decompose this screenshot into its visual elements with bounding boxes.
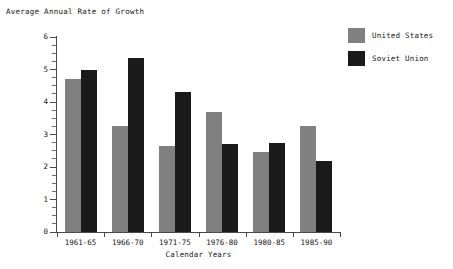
x-axis-tick-labels: 1961-651966-701971-751976-801980-851985-… bbox=[0, 238, 453, 250]
y-axis-tick-major bbox=[50, 37, 56, 38]
legend-item: Soviet Union bbox=[348, 51, 448, 74]
y-axis-tick-minor bbox=[52, 142, 56, 143]
x-axis-tick bbox=[104, 233, 105, 237]
x-axis-tick bbox=[293, 233, 294, 237]
y-axis-tick-minor bbox=[52, 110, 56, 111]
x-axis-tick bbox=[340, 233, 341, 237]
x-axis-tick bbox=[246, 233, 247, 237]
bar-1976-80-soviet-union bbox=[222, 144, 238, 232]
y-axis-tick-minor bbox=[52, 126, 56, 127]
bar-chart: Average Annual Rate of Growth 0123456 19… bbox=[0, 0, 453, 269]
y-axis-tick-label: 0 bbox=[14, 228, 48, 236]
y-axis-tick-label: 5 bbox=[14, 66, 48, 74]
x-axis-tick-label: 1971-75 bbox=[159, 238, 191, 247]
y-axis-tick-minor bbox=[52, 207, 56, 208]
bar-1961-65-soviet-union bbox=[81, 70, 97, 233]
y-axis-tick-labels: 0123456 bbox=[8, 0, 48, 269]
legend-item: United States bbox=[348, 28, 448, 51]
bar-1961-65-united-states bbox=[65, 79, 81, 232]
bar-1966-70-soviet-union bbox=[128, 58, 144, 232]
x-axis-tick bbox=[57, 233, 58, 237]
y-axis-tick-major bbox=[50, 134, 56, 135]
y-axis-tick-major bbox=[50, 102, 56, 103]
y-axis-tick-label: 6 bbox=[14, 33, 48, 41]
y-axis-tick-major bbox=[50, 167, 56, 168]
legend-swatch-icon bbox=[348, 28, 365, 43]
y-axis-tick-major bbox=[50, 232, 56, 233]
legend-label: Soviet Union bbox=[372, 54, 429, 63]
plot-area bbox=[57, 37, 340, 232]
y-axis-tick-minor bbox=[52, 215, 56, 216]
y-axis-tick-minor bbox=[52, 61, 56, 62]
bar-1976-80-united-states bbox=[206, 112, 222, 232]
y-axis-tick-major bbox=[50, 69, 56, 70]
bar-1971-75-united-states bbox=[159, 146, 175, 232]
bar-1971-75-soviet-union bbox=[175, 92, 191, 232]
y-axis-tick-minor bbox=[52, 191, 56, 192]
bar-1985-90-soviet-union bbox=[316, 161, 332, 233]
x-axis-tick-label: 1966-70 bbox=[112, 238, 144, 247]
y-axis-tick-label: 2 bbox=[14, 163, 48, 171]
y-axis-tick-label: 3 bbox=[14, 131, 48, 139]
y-axis-tick-label: 4 bbox=[14, 98, 48, 106]
x-axis-title: Calendar Years bbox=[57, 250, 340, 259]
y-axis-tick-minor bbox=[52, 223, 56, 224]
y-axis-tick-minor bbox=[52, 183, 56, 184]
y-axis-tick-minor bbox=[52, 158, 56, 159]
chart-legend: United StatesSoviet Union bbox=[348, 28, 448, 74]
legend-label: United States bbox=[372, 31, 433, 40]
x-axis-tick-label: 1961-65 bbox=[65, 238, 97, 247]
legend-swatch-icon bbox=[348, 51, 365, 66]
y-axis-tick-minor bbox=[52, 150, 56, 151]
y-axis-tick-label: 1 bbox=[14, 196, 48, 204]
y-axis-tick-minor bbox=[52, 85, 56, 86]
y-axis-tick-minor bbox=[52, 53, 56, 54]
y-axis-tick-minor bbox=[52, 77, 56, 78]
bar-1980-85-united-states bbox=[253, 152, 269, 232]
x-axis-tick bbox=[199, 233, 200, 237]
y-axis-tick-minor bbox=[52, 118, 56, 119]
y-axis-tick-minor bbox=[52, 45, 56, 46]
y-axis-tick-major bbox=[50, 199, 56, 200]
bar-1966-70-united-states bbox=[112, 126, 128, 232]
y-axis-tick-minor bbox=[52, 93, 56, 94]
x-axis-tick-label: 1985-90 bbox=[301, 238, 333, 247]
bar-1985-90-united-states bbox=[300, 126, 316, 232]
bar-1980-85-soviet-union bbox=[269, 143, 285, 232]
x-axis-tick-label: 1980-85 bbox=[253, 238, 285, 247]
y-axis-tick-minor bbox=[52, 175, 56, 176]
x-axis-tick bbox=[151, 233, 152, 237]
x-axis-tick-label: 1976-80 bbox=[206, 238, 238, 247]
